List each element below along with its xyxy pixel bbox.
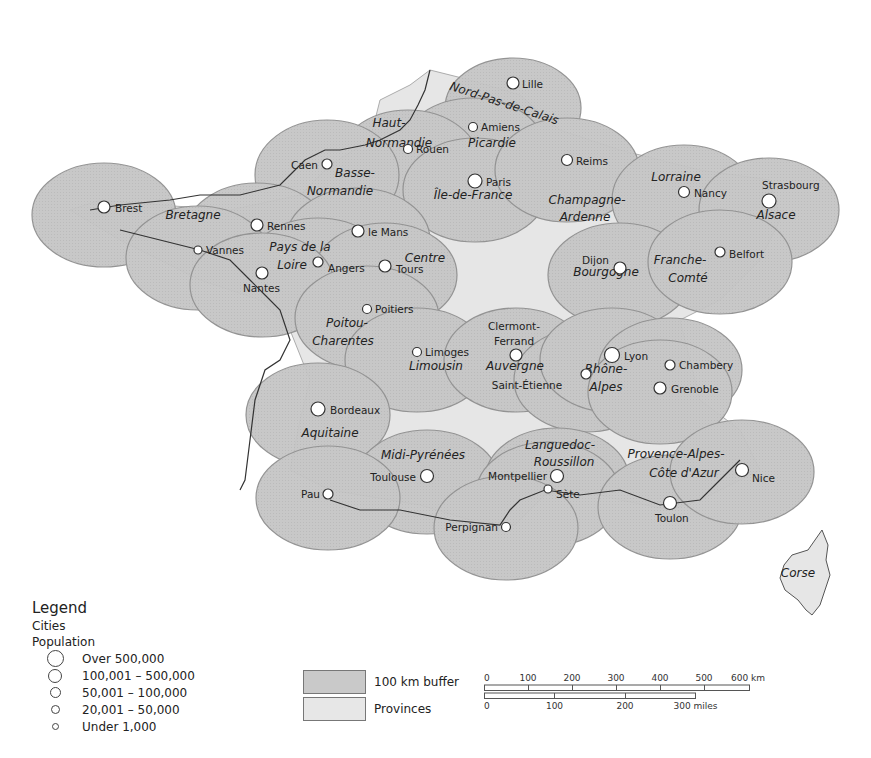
region-label: Alpes — [589, 380, 623, 394]
region-label: Alsace — [755, 208, 795, 222]
region-label: Pays de la — [269, 240, 330, 254]
region-label: Basse- — [335, 166, 375, 180]
city-label: Lyon — [624, 350, 648, 362]
region-label: Ardenne — [559, 210, 611, 224]
legend-class: 20,001 – 50,000 — [32, 701, 195, 718]
city-marker: Montpellier — [488, 470, 563, 483]
city-label: Poitiers — [375, 303, 414, 315]
city-circle-icon — [762, 194, 776, 208]
region-label: Picardie — [468, 136, 516, 150]
city-marker: Reims — [562, 155, 608, 168]
city-label: Brest — [115, 202, 142, 214]
legend-cities: Cities — [32, 618, 195, 634]
city-circle-icon — [468, 174, 482, 188]
provinces-swatch — [303, 697, 366, 721]
city-label: Caen — [291, 159, 318, 171]
city-label: Ferrand — [494, 335, 534, 347]
buffer-swatch — [303, 670, 366, 694]
city-circle-icon — [313, 257, 323, 267]
city-marker: le Mans — [352, 225, 408, 238]
city-circle-icon — [551, 470, 564, 483]
city-label: Pau — [301, 488, 320, 500]
region-label: Languedoc- — [525, 438, 595, 452]
city-circle-icon — [251, 219, 263, 231]
city-marker: Rennes — [251, 219, 306, 232]
city-circle-icon — [679, 187, 690, 198]
city-circle-icon — [544, 485, 552, 493]
region-label: Aquitaine — [300, 426, 358, 440]
scale-tick: 300 miles — [673, 701, 717, 711]
city-circle-icon — [404, 145, 413, 154]
population-legend: Legend Cities Population Over 500,000100… — [32, 598, 195, 735]
scale-tick: 0 — [484, 673, 490, 683]
scale-tick: 100 — [546, 701, 563, 711]
city-circle-icon — [736, 464, 749, 477]
city-circle-icon — [510, 349, 522, 361]
city-marker: Lille — [507, 77, 543, 90]
city-circle-icon — [664, 497, 677, 510]
city-label: Rouen — [416, 143, 449, 155]
city-label: Lille — [522, 78, 543, 90]
city-circle-icon — [581, 369, 591, 379]
city-label: Sète — [556, 488, 580, 500]
region-label: Provence-Alpes- — [627, 447, 724, 461]
legend-class: 100,001 – 500,000 — [32, 667, 195, 684]
legend-class: Under 1,000 — [32, 718, 195, 735]
city-circle-icon — [502, 523, 511, 532]
region-label: Champagne- — [549, 193, 626, 207]
city-label: Perpignan — [445, 521, 498, 533]
city-label: Bordeaux — [330, 404, 380, 416]
scale-tick: 200 — [616, 701, 633, 711]
legend-class: 50,001 – 100,000 — [32, 684, 195, 701]
city-circle-icon — [562, 155, 573, 166]
legend-provinces: Provinces — [303, 697, 459, 721]
city-marker: Pau — [301, 488, 333, 500]
region-label: Lorraine — [651, 170, 701, 184]
region-label: Normandie — [307, 184, 373, 198]
city-label: Reims — [576, 155, 608, 167]
city-marker: Paris — [468, 174, 511, 188]
region-label: Franche- — [654, 253, 707, 267]
circle-icon — [52, 723, 59, 730]
region-label: Poitou- — [326, 316, 368, 330]
scale-tick: 0 — [484, 701, 490, 711]
city-label: Limoges — [425, 346, 469, 358]
city-label: Amiens — [481, 121, 520, 133]
circle-icon — [51, 705, 60, 714]
region-label: Bretagne — [165, 208, 220, 222]
circle-icon — [47, 650, 64, 667]
region-label: Bourgogne — [573, 265, 639, 279]
legend-class: Over 500,000 — [32, 650, 195, 667]
city-label: Montpellier — [488, 470, 548, 482]
region-label: Limousin — [409, 359, 463, 373]
city-marker: Grenoble — [654, 382, 719, 395]
region-label: Loire — [277, 258, 307, 272]
city-marker: Brest — [98, 201, 142, 214]
legend-buffer: 100 km buffer — [303, 670, 459, 694]
scale-tick: 200 — [563, 673, 580, 683]
legend-population: Population — [32, 634, 195, 650]
city-circle-icon — [665, 360, 675, 370]
city-circle-icon — [605, 348, 620, 363]
region-label: Île-de-France — [434, 187, 513, 202]
scale-tick: 100 — [519, 673, 536, 683]
city-circle-icon — [323, 489, 333, 499]
scale-tick: 300 — [607, 673, 624, 683]
city-label: Paris — [486, 176, 511, 188]
city-circle-icon — [363, 305, 372, 314]
legend-title: Legend — [32, 598, 195, 618]
city-label: Nice — [752, 472, 775, 484]
city-circle-icon — [256, 267, 268, 279]
city-label: Clermont- — [488, 320, 540, 332]
region-label: Roussillon — [534, 455, 595, 469]
city-label: Tours — [395, 263, 424, 275]
city-label: Rennes — [267, 220, 306, 232]
region-label: Midi-Pyrénées — [381, 448, 465, 462]
city-marker: Bordeaux — [311, 402, 380, 416]
city-circle-icon — [654, 382, 666, 394]
city-circle-icon — [379, 260, 391, 272]
circle-icon — [48, 669, 62, 683]
city-circle-icon — [311, 402, 325, 416]
city-label: Nantes — [243, 282, 280, 294]
scale-tick: 600 km — [731, 673, 765, 683]
